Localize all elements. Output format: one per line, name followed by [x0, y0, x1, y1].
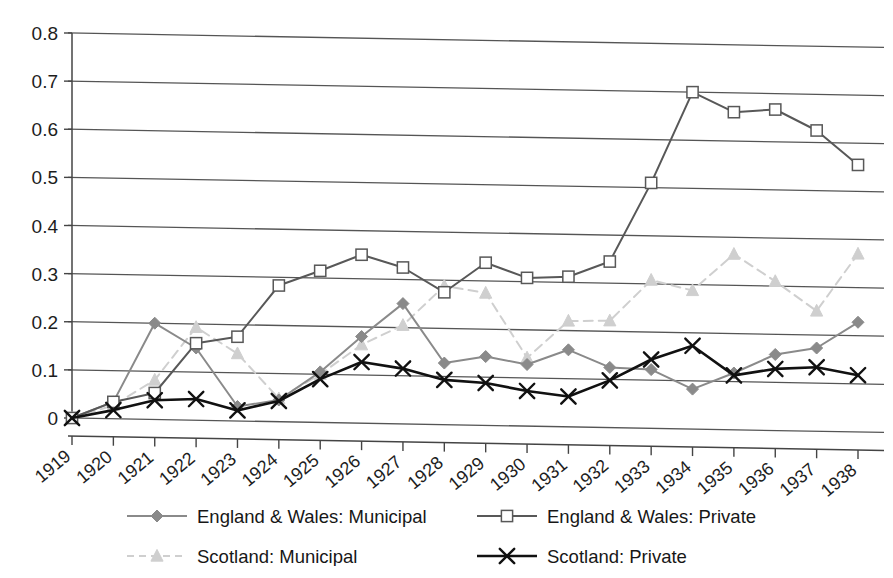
- diamond-marker: [604, 361, 616, 373]
- x-tick-label: 1925: [279, 450, 323, 491]
- diamond-marker: [438, 357, 450, 369]
- cross-x-marker: [603, 373, 617, 387]
- legend-label: England & Wales: Private: [547, 506, 756, 527]
- gridline: [68, 274, 884, 289]
- y-tick-label: 0.5: [32, 167, 58, 188]
- x-tick-labels-group: 1919192019211922192319241925192619271928…: [31, 446, 861, 501]
- chart-figure: 00.10.20.30.40.50.60.70.8 19191920192119…: [0, 0, 893, 578]
- x-tick-label: 1933: [610, 456, 654, 497]
- triangle-marker: [190, 321, 202, 333]
- y-tick-label: 0.6: [32, 119, 58, 140]
- x-tick-label: 1931: [527, 455, 571, 496]
- x-tick-label: 1920: [72, 446, 116, 487]
- x-tick-label: 1930: [486, 454, 530, 495]
- x-tick-label: 1929: [445, 453, 489, 494]
- open-square-marker: [191, 338, 202, 349]
- open-square-marker: [315, 265, 326, 276]
- x-tick-label: 1934: [652, 457, 696, 498]
- y-tick-label: 0: [47, 408, 58, 429]
- y-tick-label: 0.4: [32, 216, 59, 237]
- diamond-marker: [480, 351, 492, 363]
- x-tick-label: 1926: [321, 451, 365, 492]
- y-tick-label: 0.3: [32, 264, 58, 285]
- x-tick-label: 1928: [403, 452, 447, 493]
- legend-group: England & Wales: MunicipalEngland & Wale…: [127, 506, 756, 567]
- open-square-marker: [521, 272, 532, 283]
- x-tick-label: 1938: [817, 460, 861, 501]
- gridline: [68, 129, 884, 144]
- open-square-marker: [501, 510, 512, 521]
- open-square-marker: [687, 87, 698, 98]
- open-square-marker: [439, 287, 450, 298]
- line-chart-plot: 00.10.20.30.40.50.60.70.8 19191920192119…: [0, 0, 893, 578]
- legend-item[interactable]: Scotland: Private: [477, 546, 687, 567]
- triangle-marker: [231, 347, 243, 359]
- open-square-marker: [232, 331, 243, 342]
- gridline: [68, 418, 884, 433]
- diamond-marker: [852, 316, 864, 328]
- open-square-marker: [604, 256, 615, 267]
- open-square-marker: [397, 262, 408, 273]
- diamond-marker: [149, 317, 161, 329]
- cross-x-marker: [685, 339, 699, 353]
- y-tick-label: 0.1: [32, 360, 58, 381]
- open-square-marker: [728, 107, 739, 118]
- x-axis-line: [68, 436, 884, 451]
- series-layer: [65, 87, 865, 426]
- y-axis-group: [64, 33, 72, 418]
- x-tick-label: 1932: [569, 455, 613, 496]
- diamond-marker: [562, 344, 574, 356]
- y-tick-label: 0.8: [32, 23, 58, 44]
- open-square-marker: [852, 159, 863, 170]
- triangle-marker: [852, 247, 864, 259]
- x-tick-label: 1921: [114, 447, 158, 488]
- series-2: [66, 247, 864, 423]
- x-tick-label: 1937: [776, 459, 820, 500]
- open-square-marker: [563, 271, 574, 282]
- x-tick-label: 1919: [31, 446, 75, 487]
- x-tick-label: 1922: [155, 448, 199, 489]
- gridline: [68, 33, 884, 48]
- legend-item[interactable]: Scotland: Municipal: [127, 546, 357, 567]
- legend-item[interactable]: England & Wales: Private: [477, 506, 756, 527]
- gridlines-group: [68, 33, 884, 433]
- open-square-marker: [770, 104, 781, 115]
- gridline: [68, 81, 884, 96]
- x-tick-label: 1935: [693, 458, 737, 499]
- diamond-marker: [769, 348, 781, 360]
- x-tick-label: 1936: [734, 458, 778, 499]
- open-square-marker: [811, 125, 822, 136]
- open-square-marker: [646, 177, 657, 188]
- legend-label: England & Wales: Municipal: [197, 506, 427, 527]
- triangle-marker: [728, 248, 740, 260]
- diamond-marker: [645, 364, 657, 376]
- legend-item[interactable]: England & Wales: Municipal: [127, 506, 427, 527]
- x-tick-label: 1927: [362, 452, 406, 493]
- legend-label: Scotland: Municipal: [197, 546, 357, 567]
- open-square-marker: [356, 249, 367, 260]
- series-line: [72, 304, 858, 418]
- y-tick-label: 0.7: [32, 71, 58, 92]
- gridline: [68, 225, 884, 240]
- open-square-marker: [273, 280, 284, 291]
- open-square-marker: [480, 257, 491, 268]
- x-tick-label: 1923: [197, 449, 241, 490]
- diamond-marker: [687, 383, 699, 395]
- series-0: [66, 298, 864, 424]
- triangle-marker: [480, 286, 492, 298]
- x-tick-label: 1924: [238, 449, 282, 490]
- triangle-marker: [769, 275, 781, 287]
- triangle-marker: [645, 273, 657, 285]
- page-bottom-margin: [0, 566, 893, 578]
- legend-label: Scotland: Private: [547, 546, 687, 567]
- y-tick-labels-group: 00.10.20.30.40.50.60.70.8: [32, 23, 59, 429]
- gridline: [68, 177, 884, 192]
- diamond-marker: [811, 342, 823, 354]
- y-tick-label: 0.2: [32, 312, 58, 333]
- diamond-marker: [151, 510, 163, 522]
